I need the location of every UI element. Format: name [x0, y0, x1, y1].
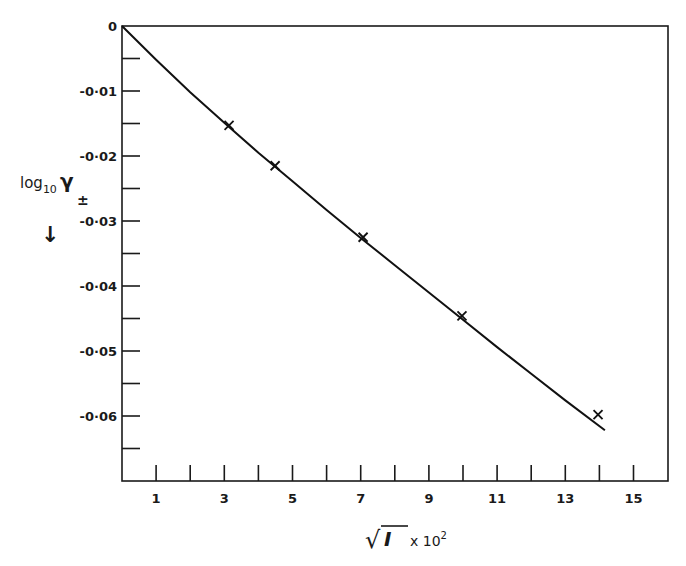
data-point-x-marker — [271, 161, 280, 170]
y-axis-title-pm: ± — [77, 192, 89, 208]
y-tick-label: -0·01 — [80, 84, 117, 99]
y-tick-label: -0·02 — [80, 149, 117, 164]
x-tick-label: 7 — [356, 491, 365, 506]
x-axis-title-var: I — [384, 527, 392, 551]
y-tick-label: 0 — [108, 19, 117, 34]
x-axis-tick-labels: 13579111315 — [152, 491, 643, 506]
y-tick-label: -0·04 — [80, 279, 117, 294]
y-tick-label: -0·05 — [80, 344, 117, 359]
sqrt-symbol: √ — [365, 526, 381, 554]
x-tick-label: 15 — [624, 491, 642, 506]
data-point-markers — [225, 121, 603, 419]
y-tick-label: -0·03 — [80, 214, 117, 229]
x-tick-label: 9 — [424, 491, 433, 506]
down-arrow-icon: ↓ — [41, 222, 59, 247]
x-tick-label: 5 — [288, 491, 297, 506]
svg-text:log10γ: log10γ — [20, 169, 74, 196]
x-axis-title-mult: x 102 — [410, 530, 447, 549]
data-point-x-marker — [594, 410, 603, 419]
y-axis-title: log10γ ± ↓ — [20, 169, 89, 247]
x-tick-label: 1 — [152, 491, 161, 506]
fitted-curve — [122, 26, 605, 430]
y-tick-label: -0·06 — [80, 409, 117, 424]
y-axis-tick-labels: 0-0·01-0·02-0·03-0·04-0·05-0·06 — [80, 19, 117, 424]
y-axis-title-gamma: γ — [60, 169, 74, 193]
y-axis-title-sub: 10 — [43, 183, 57, 196]
y-axis-ticks — [122, 59, 140, 449]
x-tick-label: 13 — [556, 491, 574, 506]
plot-frame — [122, 26, 668, 481]
x-tick-label: 11 — [488, 491, 506, 506]
x-tick-label: 3 — [220, 491, 229, 506]
chart: 0-0·01-0·02-0·03-0·04-0·05-0·06 13579111… — [0, 0, 686, 566]
x-axis-title: √ I x 102 — [365, 526, 447, 554]
x-axis-ticks — [156, 465, 633, 481]
y-axis-title-log: log — [20, 174, 43, 192]
